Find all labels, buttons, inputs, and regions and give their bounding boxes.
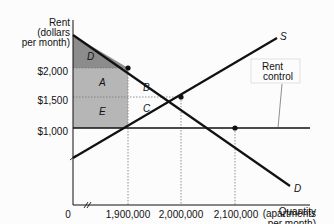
region-label-b: B: [143, 82, 150, 93]
rent-control-label-line2: control: [263, 71, 293, 82]
y-tick-1000: $1,000: [37, 126, 68, 137]
x-tick-1900000: 1,900,000: [106, 209, 151, 220]
rent-control-leader-line: [278, 84, 282, 128]
region-label-c: C: [143, 103, 151, 114]
x-axis-title-line3-visible: per month): [263, 219, 316, 224]
point-d-at-1900000: [125, 65, 130, 70]
y-tick-2000: $2,000: [37, 66, 68, 77]
rent-control-chart: Rent control S D D A B C E Rent (dollars…: [0, 0, 334, 224]
x-tick-2100000: 2,100,000: [214, 209, 259, 220]
equilibrium-point: [178, 94, 183, 99]
demand-curve-label: D: [294, 183, 301, 194]
y-tick-1500: $1,500: [37, 95, 68, 106]
point-d-at-2100000: [232, 125, 237, 130]
x-tick-0: 0: [65, 209, 71, 220]
x-axis-title-line3: (apartmentsper month): [263, 209, 316, 224]
supply-curve-label: S: [280, 31, 287, 42]
x-tick-2000000: 2,000,000: [159, 209, 204, 220]
region-label-a: A: [98, 77, 106, 88]
region-label-e: E: [99, 106, 106, 117]
y-axis-title-line3: per month): [22, 37, 70, 48]
region-label-d: D: [87, 51, 94, 62]
